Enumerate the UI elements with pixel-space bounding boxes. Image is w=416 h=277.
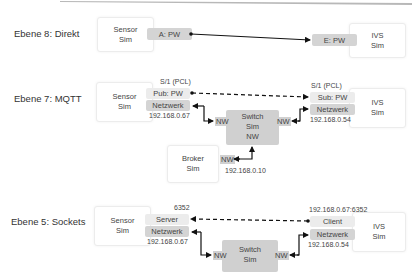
- arrow-direct: [191, 34, 310, 40]
- port-a-pw: A: PW: [147, 28, 192, 40]
- sensor-label: Sensor: [113, 92, 137, 101]
- port-number-caption: 6352: [174, 204, 190, 211]
- sensor-sim-box: SensorSim: [96, 82, 153, 122]
- ip-ivs: 192.168.0.54: [310, 116, 351, 123]
- row-title-mqtt: Ebene 7: MQTT: [14, 93, 82, 104]
- port-netzwerk-left: Netzwerk: [145, 226, 189, 237]
- client-target-caption: 192.168.0.67:6352: [309, 206, 367, 213]
- switch-nw-bottom: NW: [226, 132, 279, 142]
- row-title-sockets: Ebene 5: Sockets: [11, 216, 85, 227]
- switch-nw-left: NW: [213, 251, 228, 260]
- sensor-sim-box: SensorSim: [94, 206, 151, 246]
- sim-label: Sim: [226, 122, 279, 132]
- ip-sensor: 192.168.0.67: [147, 238, 188, 245]
- arrow-client-server: [191, 219, 308, 221]
- switch-nw-right: NW: [274, 251, 289, 260]
- sim-label: Sim: [118, 102, 131, 111]
- switch-nw-left: NW: [215, 117, 230, 126]
- switch-label: Switch: [226, 112, 279, 122]
- sensor-label: Sensor: [114, 25, 138, 34]
- port-netzwerk-right: Netzwerk: [310, 229, 355, 240]
- sim-label: Sim: [373, 232, 386, 241]
- ip-broker: 192.168.0.10: [225, 167, 266, 174]
- sim-label: Sim: [187, 164, 200, 173]
- sim-label: Sim: [116, 226, 129, 235]
- port-sub-pw: Sub: PW: [310, 92, 355, 103]
- arrow-pubsub: [192, 93, 308, 97]
- top-divider-line: [60, 1, 412, 5]
- port-server: Server: [145, 214, 189, 225]
- sim-label: Sim: [371, 41, 384, 50]
- ivs-label: IVS: [371, 31, 383, 40]
- ip-ivs: 192.168.0.54: [308, 241, 349, 248]
- switch-label: Switch: [222, 245, 278, 255]
- ivs-sim-box: IVSSim: [349, 88, 406, 128]
- port-e-pw: E: PW: [312, 34, 357, 46]
- switch-sim-sockets: Switch Sim: [222, 240, 278, 272]
- ip-sensor: 192.168.0.67: [149, 112, 190, 119]
- ivs-sim-box: IVSSim: [352, 212, 406, 252]
- sim-label: Sim: [119, 35, 132, 44]
- sensor-label: Sensor: [111, 216, 135, 225]
- ivs-label: IVS: [371, 98, 383, 107]
- port-pub-pw: Pub: PW: [146, 88, 190, 99]
- switch-nw-right: NW: [276, 117, 291, 126]
- broker-nw: NW: [220, 155, 235, 164]
- port-client: Client: [310, 216, 355, 227]
- sim-label: Sim: [222, 255, 278, 265]
- port-netzwerk-left: Netzwerk: [146, 100, 190, 111]
- ivs-label: IVS: [373, 222, 385, 231]
- broker-sim-box: BrokerSim: [167, 145, 219, 183]
- sim-label: Sim: [371, 108, 384, 117]
- sensor-sim-box: SensorSim: [97, 17, 154, 52]
- broker-label: Broker: [182, 154, 204, 163]
- pcl-caption-right: S/1 (PCL): [311, 82, 342, 89]
- pcl-caption-left: S/1 (PCL): [160, 78, 191, 85]
- ivs-sim-box: IVSSim: [349, 23, 406, 58]
- switch-sim-mqtt: Switch Sim NW: [226, 110, 279, 145]
- port-netzwerk-right: Netzwerk: [310, 104, 355, 115]
- row-title-direkt: Ebene 8: Direkt: [14, 28, 79, 39]
